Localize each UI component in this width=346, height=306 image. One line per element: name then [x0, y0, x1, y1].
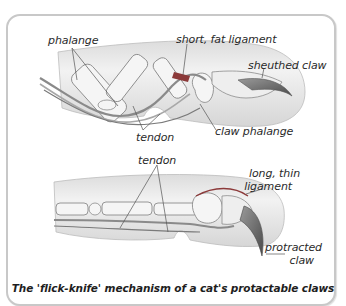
label-long-thin-ligament-line1: long, thin: [236, 168, 300, 180]
label-tendon-top: tendon: [136, 132, 174, 144]
claw-phalange-bone-protracted: [192, 193, 222, 223]
figure-caption: The 'flick-knife' mechanism of a cat's p…: [0, 282, 346, 294]
label-long-thin-ligament-line2: ligament: [236, 181, 292, 193]
label-protracted-claw-line2: claw: [262, 255, 314, 267]
label-short-fat-ligament: short, fat ligament: [176, 34, 276, 46]
label-tendon-bottom: tendon: [138, 155, 176, 167]
label-protracted-claw-line1: protracted: [262, 242, 322, 254]
label-phalange: phalange: [48, 35, 98, 47]
label-claw-phalange: claw phalange: [215, 126, 293, 138]
retracted-paw-drawing: [40, 41, 305, 127]
label-sheathed-claw: sheuthed claw: [248, 60, 327, 72]
